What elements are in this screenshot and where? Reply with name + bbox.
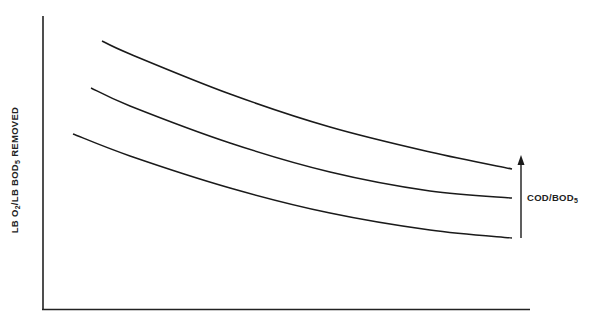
annotation-subscript: 5 <box>574 197 578 204</box>
y-label-subscript: 2 <box>14 205 21 209</box>
y-label-part: /LB BOD <box>9 164 20 205</box>
curve-medium-cod-bod <box>91 88 512 198</box>
arrow-up-icon <box>518 155 525 238</box>
y-label-part: LB O <box>9 209 20 233</box>
y-label-subscript: 5 <box>14 160 21 164</box>
cod-bod-annotation-label: COD/BOD5 <box>527 192 578 204</box>
annotation-text: COD/BOD <box>527 192 574 203</box>
y-axis-label: LB O2/LB BOD5 REMOVED <box>2 60 28 280</box>
y-label-part: REMOVED <box>9 107 20 160</box>
curve-low-cod-bod <box>73 134 512 238</box>
curve-high-cod-bod <box>102 41 512 169</box>
chart-canvas <box>0 0 595 328</box>
